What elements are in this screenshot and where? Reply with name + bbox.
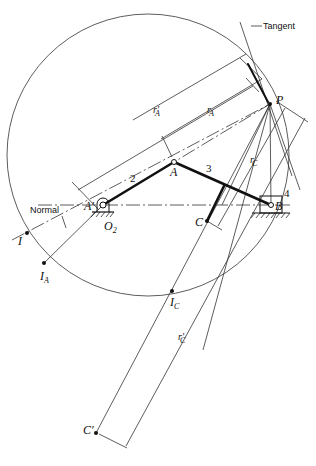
label-b: B (275, 199, 283, 213)
label-normal: Normal (30, 205, 59, 215)
dim-rc-prime-end (99, 434, 127, 448)
label-ra: rA (207, 104, 214, 118)
ray-p-extra (270, 104, 300, 190)
joint-b (269, 203, 274, 208)
label-ic: IC (169, 295, 180, 311)
label-ia: IA (39, 269, 49, 285)
point-p (268, 102, 272, 106)
ray-p-extra2 (222, 104, 270, 205)
label-tangent: Tangent (263, 21, 296, 31)
label-rc: rC (250, 154, 258, 168)
link-3 (174, 162, 271, 205)
label-a-prime: A′ (83, 199, 94, 213)
mechanism-diagram: Tangent Normal P A A′ B C C′ I O2 IA IC … (0, 0, 316, 466)
ray-p-c (96, 104, 270, 433)
label-p: P (275, 93, 284, 107)
point-c (205, 219, 209, 223)
joint-a (172, 160, 177, 165)
label-c: C (195, 215, 204, 229)
o2-ground-hatch (91, 212, 114, 217)
normal-leader (62, 216, 66, 228)
label-link-2: 2 (130, 172, 136, 184)
point-c-prime (94, 431, 98, 435)
label-rc-prime: r′C (178, 331, 186, 345)
label-ra-prime: r′A (153, 104, 160, 118)
point-ia (42, 261, 46, 265)
diagram-canvas: Tangent Normal P A A′ B C C′ I O2 IA IC … (0, 0, 316, 466)
label-o2: O2 (104, 219, 117, 235)
label-i: I (17, 234, 23, 248)
label-c-prime: C′ (83, 423, 94, 437)
slider-ground-hatch (251, 213, 290, 218)
ray-p-b (270, 104, 271, 205)
joint-o2 (100, 202, 106, 208)
ray-p-lower (203, 104, 270, 350)
dim-ra-top2 (133, 54, 246, 120)
point-i (25, 231, 29, 235)
point-ic (170, 289, 174, 293)
normal-line (12, 104, 270, 240)
label-link-4: 4 (284, 187, 290, 199)
dim-ra-ext (162, 136, 172, 157)
dim-rc-prime (126, 118, 305, 446)
label-a: A (169, 165, 178, 179)
inflection-circle (7, 14, 289, 296)
link-3-arm (207, 186, 224, 221)
dim-ra-prime (78, 86, 253, 190)
label-link-3: 3 (206, 162, 212, 174)
